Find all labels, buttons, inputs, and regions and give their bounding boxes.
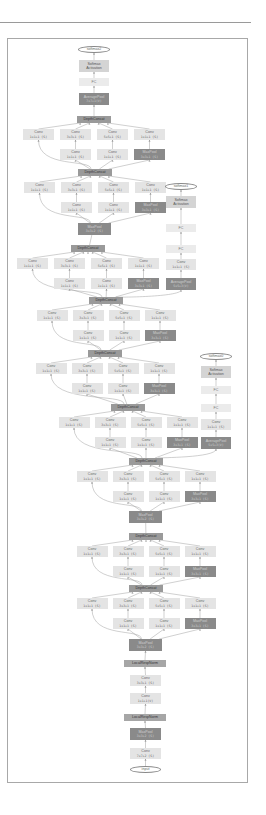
softmax1-conv-params: 1x1+1 (S) <box>172 265 189 269</box>
stem-conv-1x1-params: 1x1+1(V) <box>138 699 153 703</box>
inception-3b-branch2-conv-params: 3x3+1 (S) <box>119 552 136 556</box>
inception-4b-branch4-conv: Conv1x1+1 (S) <box>167 417 198 428</box>
inception-4e-branch3-conv: Conv5x5+1 (S) <box>91 258 122 269</box>
local-resp-norm-1-label: LocalRespNorm <box>132 715 158 719</box>
inception-5b-maxpool-params: 3x3+1 (S) <box>141 155 158 159</box>
inception-5b-branch1-conv: Conv1x1+1 (S) <box>23 129 54 140</box>
inception-4c-branch1-conv: Conv1x1+1 (S) <box>36 363 67 374</box>
softmax2-output-label: softmax2 <box>87 47 102 51</box>
inception-4b-reduce5-conv: Conv1x1+1 (S) <box>131 437 162 448</box>
inception-5b-branch3-conv: Conv5x5+1 (S) <box>97 129 128 140</box>
inception-4a-reduce5-conv: Conv1x1+1 (S) <box>149 491 180 502</box>
depthconcat-5b-label: DepthConcat <box>84 117 105 121</box>
depthconcat-3b-label: DepthConcat <box>136 534 157 538</box>
inception-4d-branch2-conv-params: 3x3+1 (S) <box>79 316 96 320</box>
depthconcat-4e-label: DepthConcat <box>78 246 99 250</box>
inception-4d-branch3-conv-params: 5x5+1 (S) <box>115 316 132 320</box>
inception-3a-reduce5-conv: Conv1x1+1 (S) <box>149 618 180 629</box>
inception-3a-reduce3-conv-params: 1x1+1 (S) <box>119 624 136 628</box>
inception-4a-maxpool: MaxPool3x3+1 (S) <box>185 491 216 502</box>
inception-3a-maxpool: MaxPool3x3+1 (S) <box>185 618 216 629</box>
softmax2-fc: FC <box>79 78 109 86</box>
inception-5b-branch1-conv-params: 1x1+1 (S) <box>30 135 47 139</box>
inception-3a-reduce5-conv-params: 1x1+1 (S) <box>155 624 172 628</box>
inception-4e-branch4-conv-params: 1x1+1 (S) <box>135 264 152 268</box>
inception-4a-reduce3-conv-params: 1x1+1 (S) <box>119 497 136 501</box>
maxpool-3-params: 3x3+2 (S) <box>137 517 154 521</box>
stem-conv-3x3-params: 3x3+1 (S) <box>137 681 154 685</box>
stem-conv-7x7: Conv7x7+2 (S) <box>130 748 161 759</box>
softmax0-output-label: softmax0 <box>209 354 224 358</box>
inception-4e-branch4-conv: Conv1x1+1 (S) <box>128 258 159 269</box>
inception-3b-branch1-conv: Conv1x1+1 (S) <box>77 546 108 557</box>
inception-4c-branch2-conv-params: 3x3+1 (S) <box>78 369 95 373</box>
inception-4e-branch2-conv-params: 3x3+1 (S) <box>61 264 78 268</box>
inception-4e-branch2-conv: Conv3x3+1 (S) <box>54 258 85 269</box>
inception-4e-maxpool-params: 3x3+1 (S) <box>135 284 152 288</box>
maxpool-1-params: 3x3+2 (S) <box>137 734 154 738</box>
inception-4d-maxpool-params: 3x3+1 (S) <box>151 336 168 340</box>
softmax2-activation-params: Activation <box>86 66 102 70</box>
inception-5a-branch4-conv: Conv1x1+1 (S) <box>135 182 166 193</box>
inception-4c-reduce3-conv: Conv1x1+1 (S) <box>72 383 103 394</box>
inception-5b-reduce5-conv-params: 1x1+1 (S) <box>104 155 121 159</box>
depthconcat-4d: DepthConcat <box>89 297 123 304</box>
inception-4c-reduce5-conv-params: 1x1+1 (S) <box>114 389 131 393</box>
inception-4e-reduce5-conv: Conv1x1+1 (S) <box>91 278 122 289</box>
inception-3b-branch2-conv: Conv3x3+1 (S) <box>113 546 144 557</box>
depthconcat-3b: DepthConcat <box>129 533 163 540</box>
inception-4c-maxpool: MaxPool3x3+1 (S) <box>144 383 175 394</box>
softmax2-output: softmax2 <box>78 46 110 53</box>
depthconcat-4b-label: DepthConcat <box>118 405 139 409</box>
inception-4c-branch4-conv: Conv1x1+1 (S) <box>144 363 175 374</box>
depthconcat-5a-label: DepthConcat <box>85 170 106 174</box>
inception-5b-maxpool: MaxPool3x3+1 (S) <box>134 149 165 160</box>
inception-4d-reduce5-conv-params: 1x1+1 (S) <box>115 336 132 340</box>
inception-3a-branch2-conv: Conv3x3+1 (S) <box>113 598 144 609</box>
inception-4e-branch1-conv: Conv1x1+1 (S) <box>17 258 48 269</box>
inception-4d-maxpool: MaxPool3x3+1 (S) <box>145 330 176 341</box>
inception-4a-branch2-conv-params: 3x3+1 (S) <box>119 477 136 481</box>
inception-4c-branch1-conv-params: 1x1+1 (S) <box>42 369 59 373</box>
inception-5a-branch1-conv-params: 1x1+1 (S) <box>31 188 48 192</box>
softmax0-fc-1-label: FC <box>214 388 219 392</box>
inception-3b-reduce3-conv: Conv1x1+1 (S) <box>113 566 144 577</box>
inception-3a-branch4-conv-params: 1x1+1 (S) <box>191 604 208 608</box>
inception-4a-reduce5-conv-params: 1x1+1 (S) <box>155 497 172 501</box>
inception-4b-reduce3-conv-params: 1x1+1 (S) <box>101 443 118 447</box>
inception-3b-maxpool: MaxPool3x3+1 (S) <box>185 566 216 577</box>
local-resp-norm-2-label: LocalRespNorm <box>132 661 158 665</box>
inception-4a-branch1-conv: Conv1x1+1 (S) <box>77 471 108 482</box>
softmax1-activation-params: Activation <box>173 202 189 206</box>
inception-4c-branch3-conv: Conv5x5+1 (S) <box>108 363 139 374</box>
softmax1-conv: Conv1x1+1 (S) <box>166 259 196 270</box>
inception-5a-branch3-conv-params: 5x5+1 (S) <box>105 188 122 192</box>
depthconcat-4b: DepthConcat <box>111 404 145 411</box>
inception-4d-reduce3-conv: Conv1x1+1 (S) <box>73 330 104 341</box>
inception-3b-reduce5-conv: Conv1x1+1 (S) <box>149 566 180 577</box>
maxpool-4-params: 3x3+2 (S) <box>86 229 103 233</box>
inception-4e-maxpool: MaxPool3x3+1 (S) <box>128 278 159 289</box>
softmax2-activation: SoftmaxActivation <box>79 60 109 72</box>
inception-4b-reduce3-conv: Conv1x1+1 (S) <box>95 437 126 448</box>
softmax0-conv-params: 1x1+1 (S) <box>207 425 224 429</box>
inception-4c-reduce5-conv: Conv1x1+1 (S) <box>108 383 139 394</box>
depthconcat-3a: DepthConcat <box>129 585 163 592</box>
depthconcat-3a-label: DepthConcat <box>136 586 157 590</box>
inception-4a-reduce3-conv: Conv1x1+1 (S) <box>113 491 144 502</box>
local-resp-norm-1: LocalRespNorm <box>124 714 166 721</box>
inception-3a-reduce3-conv: Conv1x1+1 (S) <box>113 618 144 629</box>
inception-5a-branch1-conv: Conv1x1+1 (S) <box>24 182 55 193</box>
input-node: input <box>130 766 161 773</box>
inception-4a-branch2-conv: Conv3x3+1 (S) <box>113 471 144 482</box>
stem-conv-1x1: Conv1x1+1(V) <box>130 693 161 704</box>
inception-5a-maxpool-params: 3x3+1 (S) <box>142 208 159 212</box>
inception-4a-maxpool-params: 3x3+1 (S) <box>191 497 208 501</box>
inception-5b-branch3-conv-params: 5x5+1 (S) <box>104 135 121 139</box>
inception-3b-reduce3-conv-params: 1x1+1 (S) <box>119 572 136 576</box>
inception-3a-branch1-conv-params: 1x1+1 (S) <box>83 604 100 608</box>
softmax0-avgpool-params: 5x5+3(V) <box>208 443 223 447</box>
local-resp-norm-2: LocalRespNorm <box>124 660 166 667</box>
inception-5a-maxpool: MaxPool3x3+1 (S) <box>135 202 166 213</box>
softmax0-avgpool: AveragePool5x5+3(V) <box>201 437 231 449</box>
